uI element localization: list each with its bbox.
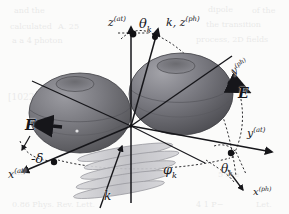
vector-minus-delta — [22, 136, 30, 150]
label-k-z-ph: k, z(ph) — [166, 16, 200, 28]
node-z-at-top — [130, 31, 137, 38]
node-origin — [129, 124, 133, 128]
label-z-at: z(at) — [108, 16, 126, 28]
node-x-at-projection — [51, 159, 57, 165]
label-k-bottom: k — [104, 190, 111, 202]
label-theta-k-bottom: θk — [221, 163, 233, 178]
figure-canvas: and thedipoleof thecalculatedA. 25the tr… — [0, 0, 289, 214]
label-x-at: x(at) — [8, 168, 26, 180]
label-x-ph: x(ph) — [253, 186, 271, 197]
node-k-direction — [152, 34, 158, 40]
label-phi-k: φk — [163, 163, 177, 180]
label-E-left: E — [25, 118, 36, 132]
stub-x-ph — [236, 152, 246, 174]
label-minus-delta: -δ — [31, 152, 43, 165]
label-y-at: y(at) — [247, 127, 265, 139]
label-E-right: E — [238, 86, 249, 100]
node-x-ph-projection — [228, 150, 234, 156]
label-theta-k-top: θk — [139, 17, 152, 34]
lobe-left — [29, 73, 131, 153]
